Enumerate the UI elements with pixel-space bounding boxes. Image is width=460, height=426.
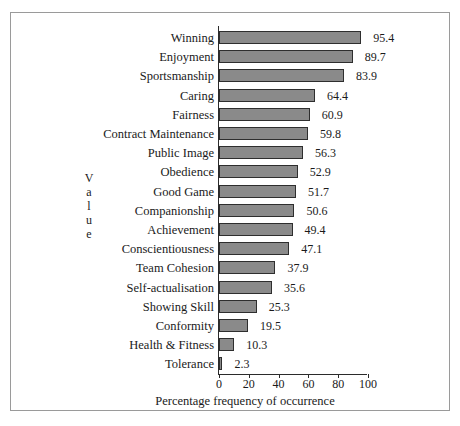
bar-value-label: 10.3	[246, 336, 267, 355]
bar-category-label: Winning	[11, 29, 214, 48]
bar-value-label: 19.5	[260, 317, 281, 336]
bar-category-label: Showing Skill	[11, 298, 214, 317]
bar-category-label: Team Cohesion	[11, 259, 214, 278]
bar-row: Fairness60.9	[11, 106, 449, 125]
value-axis-line	[218, 374, 367, 375]
bar-category-label: Public Image	[11, 144, 214, 163]
bar	[219, 261, 275, 274]
bar-row: Sportsmanship83.9	[11, 67, 449, 86]
bar-row: Contract Maintenance59.8	[11, 125, 449, 144]
bar-value-label: 56.3	[315, 144, 336, 163]
bar-category-label: Conscientiousness	[11, 240, 214, 259]
bar	[219, 31, 361, 44]
bar-row: Conscientiousness47.1	[11, 240, 449, 259]
bar-row: Conformity19.5	[11, 317, 449, 336]
bar-value-label: 89.7	[365, 48, 386, 67]
bar-category-label: Sportsmanship	[11, 67, 214, 86]
bar	[219, 281, 272, 294]
bar-value-label: 59.8	[320, 125, 341, 144]
bar-category-label: Health & Fitness	[11, 336, 214, 355]
bar	[219, 127, 308, 140]
bar	[219, 69, 344, 82]
bar-row: Showing Skill25.3	[11, 298, 449, 317]
bar-value-label: 49.4	[305, 221, 326, 240]
bar-row: Winning95.4	[11, 29, 449, 48]
bar-value-label: 2.3	[234, 355, 249, 374]
bar-value-label: 50.6	[306, 202, 327, 221]
bar	[219, 89, 315, 102]
bar	[219, 223, 293, 236]
bar	[219, 50, 353, 63]
bar-row: Obedience52.9	[11, 163, 449, 182]
bar	[219, 319, 248, 332]
bar-category-label: Good Game	[11, 183, 214, 202]
value-axis-title: Percentage frequency of occurrence	[11, 394, 449, 409]
bar-category-label: Tolerance	[11, 355, 214, 374]
bar-row: Tolerance2.3	[11, 355, 449, 374]
bar-row: Companionship50.6	[11, 202, 449, 221]
bar-category-label: Conformity	[11, 317, 214, 336]
bar-value-label: 25.3	[269, 298, 290, 317]
plot-area: Value Winning95.4Enjoyment89.7Sportsmans…	[11, 13, 449, 410]
bar-row: Self-actualisation35.6	[11, 279, 449, 298]
bar-value-label: 95.4	[373, 29, 394, 48]
bar-category-label: Obedience	[11, 163, 214, 182]
bar-category-label: Self-actualisation	[11, 279, 214, 298]
bar-value-label: 37.9	[287, 259, 308, 278]
bar	[219, 146, 303, 159]
bar-category-label: Caring	[11, 87, 214, 106]
bar-row: Health & Fitness10.3	[11, 336, 449, 355]
bar-row: Enjoyment89.7	[11, 48, 449, 67]
bar-category-label: Fairness	[11, 106, 214, 125]
bar	[219, 338, 234, 351]
bar-row: Good Game51.7	[11, 183, 449, 202]
category-axis-line	[218, 26, 219, 375]
value-axis-tick-label: 100	[348, 377, 388, 391]
bar	[219, 108, 310, 121]
bar	[219, 242, 289, 255]
bar-value-label: 60.9	[322, 106, 343, 125]
bar-value-label: 51.7	[308, 183, 329, 202]
bar-value-label: 47.1	[301, 240, 322, 259]
bar-category-label: Companionship	[11, 202, 214, 221]
bar	[219, 185, 296, 198]
bar-value-label: 35.6	[284, 279, 305, 298]
bar-row: Public Image56.3	[11, 144, 449, 163]
bar-category-label: Contract Maintenance	[11, 125, 214, 144]
bar-row: Caring64.4	[11, 87, 449, 106]
bar-value-label: 83.9	[356, 67, 377, 86]
bar	[219, 300, 257, 313]
bar-category-label: Enjoyment	[11, 48, 214, 67]
chart-figure: Value Winning95.4Enjoyment89.7Sportsmans…	[10, 12, 450, 411]
bar-value-label: 64.4	[327, 87, 348, 106]
bar	[219, 357, 222, 370]
bar-row: Achievement49.4	[11, 221, 449, 240]
bar-category-label: Achievement	[11, 221, 214, 240]
bar	[219, 165, 298, 178]
bar-value-label: 52.9	[310, 163, 331, 182]
bar-row: Team Cohesion37.9	[11, 259, 449, 278]
bar	[219, 204, 294, 217]
